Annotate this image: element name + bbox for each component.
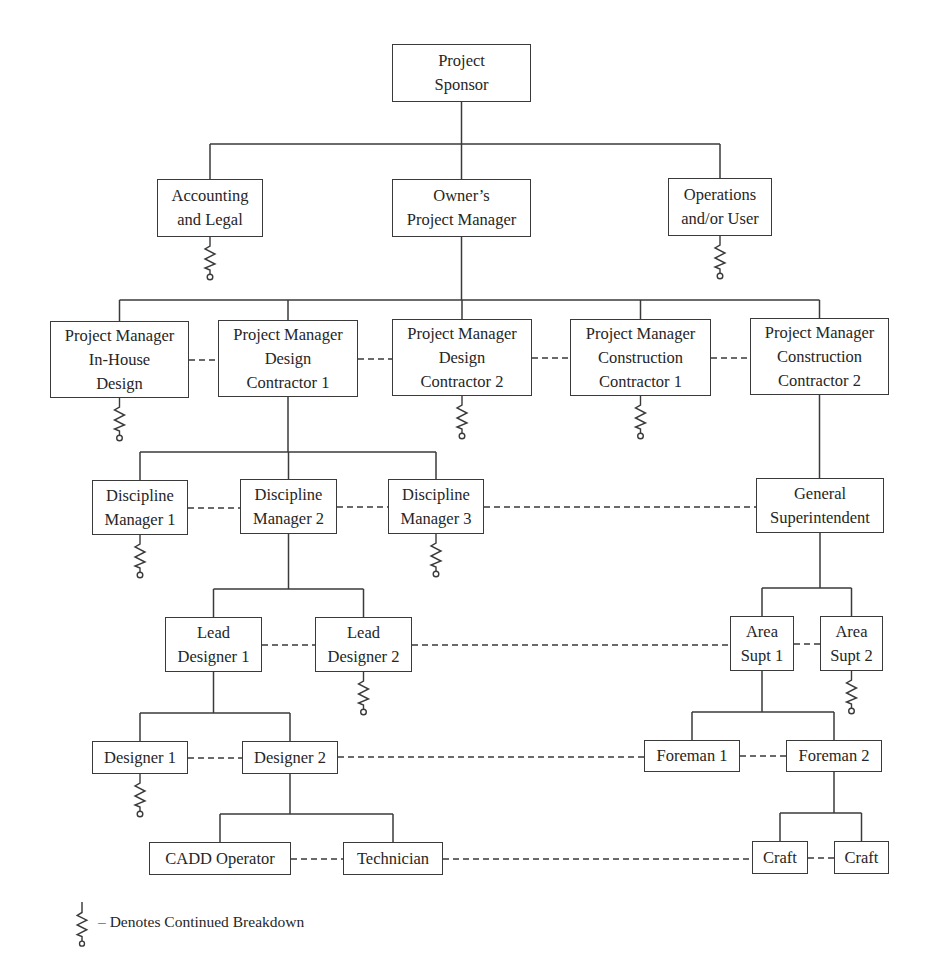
org-node-label: Discipline Manager 2: [253, 483, 324, 531]
org-node-gen-supt: General Superintendent: [756, 478, 884, 533]
org-node-sponsor: Project Sponsor: [392, 44, 531, 102]
org-node-label: Foreman 2: [798, 744, 869, 768]
org-node-as2: Area Supt 2: [820, 616, 883, 671]
org-chart: Project SponsorAccounting and LegalOwner…: [0, 0, 933, 964]
org-node-label: Project Manager Design Contractor 1: [233, 323, 343, 395]
continued-breakdown-icon: [205, 237, 215, 280]
org-node-label: Technician: [357, 847, 429, 871]
org-node-label: Craft: [763, 846, 797, 870]
org-node-label: Foreman 1: [656, 744, 727, 768]
org-node-label: General Superintendent: [770, 482, 870, 530]
org-node-label: Designer 1: [104, 746, 176, 770]
org-node-des2: Designer 2: [242, 741, 338, 774]
continued-breakdown-icon: [135, 535, 145, 578]
org-node-label: Craft: [845, 846, 879, 870]
org-node-label: Area Supt 2: [830, 620, 873, 668]
org-node-craft1: Craft: [752, 841, 808, 874]
org-node-label: Area Supt 1: [741, 620, 784, 668]
org-node-craft2: Craft: [834, 841, 889, 874]
org-node-owner-pm: Owner’s Project Manager: [392, 179, 531, 237]
org-node-label: Project Manager Design Contractor 2: [407, 322, 517, 394]
continued-breakdown-icon: [431, 534, 441, 577]
org-node-pm-dc2: Project Manager Design Contractor 2: [392, 319, 532, 396]
org-node-cadd: CADD Operator: [149, 842, 291, 875]
org-node-fore1: Foreman 1: [644, 740, 740, 772]
continued-breakdown-icon: [115, 398, 125, 441]
org-node-dm2: Discipline Manager 2: [240, 479, 337, 534]
org-node-label: Discipline Manager 1: [104, 484, 175, 532]
org-node-label: Project Manager In-House Design: [65, 324, 175, 396]
continued-breakdown-icon: [71, 900, 93, 948]
org-node-label: Discipline Manager 3: [400, 483, 471, 531]
org-node-accounting: Accounting and Legal: [157, 179, 263, 237]
org-node-operations: Operations and/or User: [668, 178, 772, 236]
org-node-label: Accounting and Legal: [172, 184, 249, 232]
continued-breakdown-icon: [135, 774, 145, 817]
continued-breakdown-icon: [847, 671, 857, 714]
org-node-label: Designer 2: [254, 746, 326, 770]
org-node-pm-dc1: Project Manager Design Contractor 1: [218, 320, 358, 397]
org-node-label: CADD Operator: [165, 847, 275, 871]
org-node-label: Project Manager Construction Contractor …: [765, 321, 875, 393]
org-node-pm-cc1: Project Manager Construction Contractor …: [570, 319, 711, 396]
org-node-dm3: Discipline Manager 3: [388, 479, 484, 534]
org-node-des1: Designer 1: [92, 741, 188, 774]
legend-label: – Denotes Continued Breakdown: [98, 913, 304, 931]
org-node-pm-inhouse: Project Manager In-House Design: [50, 321, 189, 398]
org-node-label: Lead Designer 1: [178, 621, 250, 669]
org-node-label: Project Manager Construction Contractor …: [586, 322, 696, 394]
org-node-dm1: Discipline Manager 1: [92, 480, 188, 535]
org-node-ld1: Lead Designer 1: [165, 617, 262, 672]
org-node-label: Owner’s Project Manager: [407, 184, 517, 232]
continued-breakdown-icon: [636, 396, 646, 439]
continued-breakdown-icon: [359, 672, 369, 715]
org-node-label: Operations and/or User: [681, 183, 758, 231]
continued-breakdown-icon: [457, 396, 467, 439]
continued-breakdown-icon: [715, 236, 725, 279]
org-node-pm-cc2: Project Manager Construction Contractor …: [750, 318, 889, 395]
org-node-tech: Technician: [343, 842, 443, 875]
org-node-label: Lead Designer 2: [328, 621, 400, 669]
org-node-ld2: Lead Designer 2: [315, 617, 412, 672]
org-node-fore2: Foreman 2: [786, 740, 882, 772]
org-node-label: Project Sponsor: [434, 49, 488, 97]
org-node-as1: Area Supt 1: [730, 616, 794, 671]
